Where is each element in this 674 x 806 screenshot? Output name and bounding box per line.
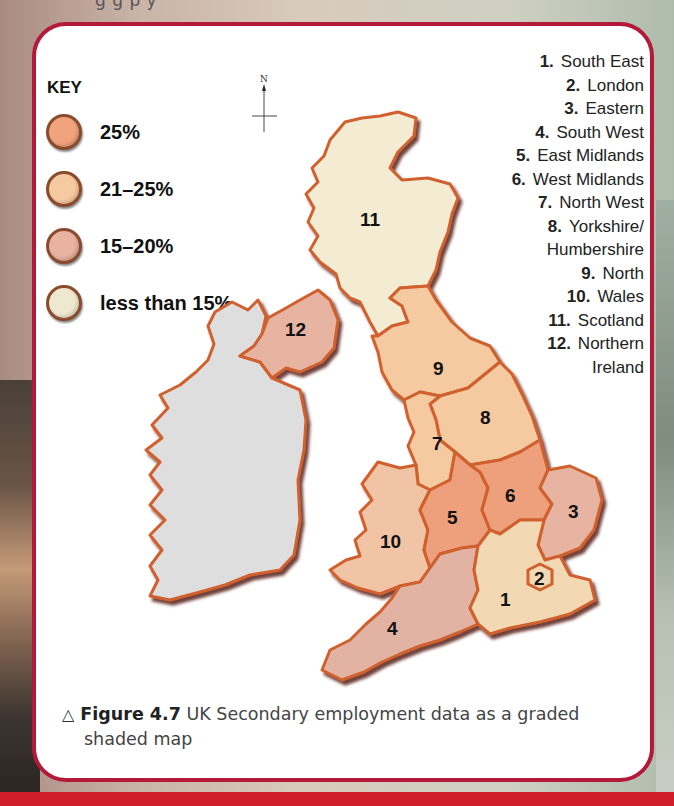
label-8: 8 bbox=[480, 407, 491, 428]
label-1: 1 bbox=[500, 589, 511, 610]
label-10: 10 bbox=[380, 531, 401, 552]
label-9: 9 bbox=[433, 358, 444, 379]
figure-caption: △Figure 4.7 UK Secondary employment data… bbox=[62, 702, 642, 752]
label-6: 6 bbox=[505, 485, 516, 506]
label-11: 11 bbox=[360, 209, 381, 230]
caption-text-line2: shaded map bbox=[62, 727, 642, 752]
label-5: 5 bbox=[447, 507, 458, 528]
uk-choropleth-map: 11 12 9 8 7 6 3 5 10 2 1 4 bbox=[0, 0, 674, 806]
figure-label: Figure 4.7 bbox=[80, 704, 181, 724]
label-7: 7 bbox=[432, 433, 443, 454]
label-2: 2 bbox=[534, 568, 545, 589]
label-3: 3 bbox=[568, 501, 579, 522]
caption-text-line1: UK Secondary employment data as a graded bbox=[186, 704, 579, 724]
label-12: 12 bbox=[285, 319, 306, 340]
label-4: 4 bbox=[387, 618, 398, 639]
triangle-icon: △ bbox=[62, 705, 74, 724]
region-10-wales bbox=[330, 462, 430, 594]
